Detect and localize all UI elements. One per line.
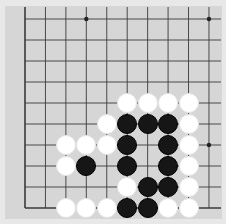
white-stone [179,177,199,197]
white-stone [179,198,199,218]
white-stone [97,114,117,134]
star-point-icon [207,17,211,21]
white-stone [158,198,178,218]
black-stone [158,177,178,197]
black-stone [138,198,158,218]
star-point-icon [84,17,88,21]
white-stone [179,135,199,155]
black-stone [158,135,178,155]
white-stone [56,198,76,218]
white-stone [179,114,199,134]
white-stone [179,156,199,176]
black-stone [158,114,178,134]
white-stone [56,135,76,155]
star-point-icon [207,143,211,147]
white-stone [97,135,117,155]
black-stone [138,114,158,134]
black-stone [158,156,178,176]
white-stone [179,93,199,113]
white-stone [56,156,76,176]
white-stone [158,93,178,113]
white-stone [97,198,117,218]
black-stone [138,177,158,197]
white-stone [138,93,158,113]
